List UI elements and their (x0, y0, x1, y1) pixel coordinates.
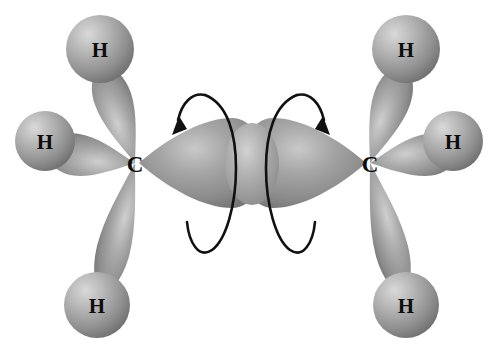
hydrogen-right-side-label: H (445, 130, 461, 154)
molecular-orbital-figure: H H H H (0, 0, 496, 359)
hydrogen-right-top-label: H (398, 38, 414, 62)
ethane-orbital-svg: H H H H (0, 0, 496, 359)
hydrogen-left-top-label: H (92, 38, 108, 62)
hydrogen-left-side-label: H (37, 130, 53, 154)
hydrogen-left-bottom-label: H (89, 294, 105, 318)
carbon-left-label: C (127, 152, 144, 177)
carbon-right-label: C (362, 152, 379, 177)
hydrogen-right-bottom-label: H (398, 294, 414, 318)
